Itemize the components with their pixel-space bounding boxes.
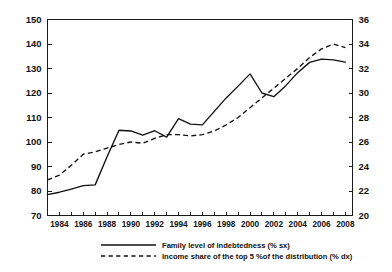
right-tick-label: 26: [359, 136, 370, 147]
x-tick-label: 1996: [193, 220, 212, 229]
legend-label-2: Income share of the top 5 %of the distri…: [162, 252, 353, 261]
x-axis: 1984198619881990199219941996199820002002…: [50, 212, 355, 229]
left-tick-label: 80: [31, 185, 42, 196]
left-tick-label: 130: [26, 63, 42, 74]
right-tick-label: 28: [359, 112, 370, 123]
x-tick-label: 1992: [146, 220, 165, 229]
left-tick-label: 100: [26, 136, 42, 147]
right-tick-label: 32: [359, 63, 370, 74]
left-tick-label: 150: [26, 14, 42, 25]
right-tick-label: 36: [359, 14, 370, 25]
series-lines: [48, 44, 346, 195]
x-tick-label: 2008: [336, 220, 355, 229]
chart-legend: Family level of indebtedness (% sx)Incom…: [101, 241, 353, 261]
left-tick-label: 90: [31, 161, 42, 172]
legend-label-1: Family level of indebtedness (% sx): [162, 241, 290, 250]
x-tick-label: 2004: [289, 220, 308, 229]
x-tick-label: 1988: [98, 220, 117, 229]
plot-border: [48, 20, 353, 216]
x-tick-label: 1998: [217, 220, 236, 229]
right-tick-label: 30: [359, 87, 370, 98]
x-tick-label: 1986: [74, 220, 93, 229]
left-tick-label: 110: [26, 112, 41, 123]
x-tick-label: 1990: [122, 220, 141, 229]
right-tick-label: 34: [359, 38, 370, 49]
left-tick-label: 120: [26, 87, 42, 98]
series-path-2: [48, 44, 346, 180]
left-tick-label: 140: [26, 38, 42, 49]
series-path-1: [48, 59, 346, 194]
right-tick-label: 22: [359, 185, 370, 196]
x-tick-label: 2000: [241, 220, 260, 229]
right-axis: 202224262830323436: [349, 14, 370, 221]
left-tick-label: 70: [31, 210, 42, 221]
right-tick-label: 20: [359, 210, 370, 221]
x-tick-label: 1984: [50, 220, 69, 229]
x-tick-label: 2006: [312, 220, 331, 229]
x-tick-label: 1994: [169, 220, 188, 229]
dual-axis-line-chart: 708090100110120130140150 202224262830323…: [0, 0, 392, 272]
right-tick-label: 24: [359, 161, 370, 172]
chart-figure: 708090100110120130140150 202224262830323…: [0, 0, 392, 272]
x-tick-label: 2002: [265, 220, 284, 229]
plot-frame: [48, 20, 353, 216]
